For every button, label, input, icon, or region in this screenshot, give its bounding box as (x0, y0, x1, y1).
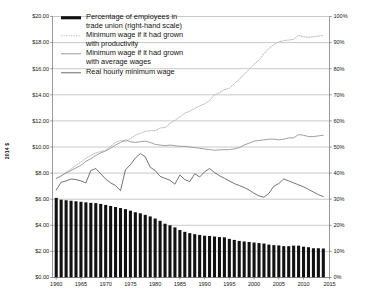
bar (154, 219, 157, 278)
bar (253, 243, 256, 278)
bar (277, 245, 280, 277)
bar (292, 246, 295, 278)
bar (74, 201, 77, 277)
bar (282, 246, 285, 277)
bar (159, 221, 162, 278)
bar (208, 236, 211, 278)
bar (287, 246, 290, 277)
x-axis-tick-label: 1980 (143, 281, 167, 287)
y-axis-right-tick-label: 10% (334, 248, 345, 254)
y-axis-left-tick-label: $16.00 (2, 66, 49, 72)
chart-container: 2014 $ $0.00$2.00$4.00$6.00$8.00$10.00$1… (0, 0, 372, 306)
bar (99, 204, 102, 278)
bar (89, 203, 92, 278)
legend-swatch-icon (60, 68, 82, 79)
x-axis-tick-label: 2010 (292, 281, 316, 287)
bar (243, 241, 246, 277)
x-axis-tick-label: 1970 (94, 281, 118, 287)
legend-item: Real hourly minimum wage (60, 68, 232, 79)
bar (218, 237, 221, 277)
legend-item: Minimum wage if it had grownwith product… (60, 31, 232, 48)
x-axis-tick-label: 1960 (44, 281, 68, 287)
bar (173, 227, 176, 277)
bar (203, 236, 206, 278)
bar (104, 205, 107, 278)
y-axis-right-tick-label: 70% (334, 92, 345, 98)
legend-label-line: Real hourly minimum wage (86, 68, 175, 77)
bar (168, 225, 171, 277)
bar (322, 249, 325, 278)
bar (307, 247, 310, 277)
legend-label-line: with productivity (86, 40, 183, 49)
y-axis-right-tick-label: 40% (334, 170, 345, 176)
legend-item: Minimum wage if it had grownwith average… (60, 49, 232, 66)
bar (149, 216, 152, 277)
y-axis-right-tick-label: 90% (334, 39, 345, 45)
y-axis-left-tick-label: $10.00 (2, 144, 49, 150)
y-axis-right-tick-label: 60% (334, 118, 345, 124)
bar (84, 202, 87, 277)
legend-label: Minimum wage if it had grownwith average… (86, 49, 183, 66)
bar (119, 208, 122, 277)
y-axis-left-tick-label: $12.00 (2, 118, 49, 124)
bar (248, 242, 251, 278)
bar (213, 237, 216, 278)
x-axis-tick-label: 1965 (69, 281, 93, 287)
x-axis-tick-label: 1985 (168, 281, 192, 287)
y-axis-left-tick-label: $4.00 (2, 222, 49, 228)
y-axis-right-tick-label: 100% (334, 13, 348, 19)
y-axis-left-tick-label: $8.00 (2, 170, 49, 176)
bar (164, 224, 167, 278)
bar (144, 215, 147, 278)
bar (297, 246, 300, 278)
y-axis-right-tick-label: 0% (334, 274, 342, 280)
bar (124, 209, 127, 277)
bar (183, 232, 186, 278)
legend-swatch-icon (60, 31, 82, 42)
bar (302, 247, 305, 278)
line-series (56, 154, 323, 198)
bar (223, 237, 226, 277)
bar (267, 245, 270, 278)
y-axis-left-tick-label: $0.00 (2, 274, 49, 280)
bar (317, 248, 320, 277)
legend-label-line: with average wages (86, 58, 183, 67)
bar (79, 202, 82, 278)
legend-item: Percentage of employees intrade union (r… (60, 13, 232, 30)
y-axis-left-tick-label: $14.00 (2, 92, 49, 98)
x-axis-tick-label: 2000 (242, 281, 266, 287)
x-axis-tick-label: 1975 (118, 281, 142, 287)
y-axis-right-tick-label: 80% (334, 66, 345, 72)
bar (233, 240, 236, 278)
bar (228, 239, 231, 278)
chart-legend: Percentage of employees intrade union (r… (60, 13, 232, 80)
x-axis-tick-label: 1990 (193, 281, 217, 287)
bar (55, 198, 58, 278)
bar (60, 200, 63, 278)
bar (193, 234, 196, 277)
legend-swatch-icon (60, 13, 82, 24)
bar (262, 244, 265, 278)
bar (129, 211, 132, 278)
bar (312, 248, 315, 277)
bar-series-union-density (55, 198, 325, 278)
legend-label-line: trade union (right-hand scale) (86, 22, 182, 31)
y-axis-left-tick-label: $20.00 (2, 13, 49, 19)
legend-label: Percentage of employees intrade union (r… (86, 13, 182, 30)
bar (94, 203, 97, 277)
bar (139, 213, 142, 277)
x-axis-tick-label: 2015 (318, 281, 342, 287)
y-axis-left-tick-label: $6.00 (2, 196, 49, 202)
bar (188, 233, 191, 277)
bar (272, 245, 275, 277)
line-series (56, 135, 323, 179)
y-axis-left-tick-label: $2.00 (2, 248, 49, 254)
legend-label: Minimum wage if it had grownwith product… (86, 31, 183, 48)
x-axis-tick-label: 2005 (267, 281, 291, 287)
legend-label: Real hourly minimum wage (86, 68, 175, 77)
bar (114, 207, 117, 277)
y-axis-left-tick-label: $18.00 (2, 39, 49, 45)
y-axis-right-tick-label: 30% (334, 196, 345, 202)
y-axis-right-tick-label: 50% (334, 144, 345, 150)
bar (257, 243, 260, 277)
